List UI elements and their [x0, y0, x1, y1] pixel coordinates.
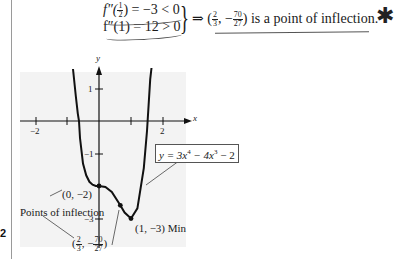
inflection-label-origin: (0, −2) [62, 188, 92, 200]
inflection-point-origin [97, 184, 102, 189]
y-tick-label-neg1: −1 [84, 149, 94, 159]
x-axis-arrow-icon [184, 118, 192, 124]
callout-leader-fraction [43, 216, 74, 238]
x-tick-label-2: 2 [160, 126, 165, 136]
y-axis-label: y [96, 53, 100, 63]
fraction-leader [112, 210, 119, 245]
function-label-box: y = 3x4 − 4x3 − 2 [155, 144, 239, 163]
y-axis-arrow-icon [96, 66, 102, 75]
callout-leader-origin [50, 190, 62, 196]
minimum-label: (1, −3) Min [135, 222, 186, 234]
x-axis-label: x [193, 113, 197, 123]
inflection-label-two-thirds: (23, −7027) [72, 236, 107, 253]
y-tick-label-1: 1 [88, 84, 93, 94]
minimum-point [129, 216, 134, 221]
inflection-point-two-thirds [118, 203, 123, 208]
x-tick-label-neg2: −2 [30, 126, 40, 136]
function-graph [0, 0, 409, 259]
points-of-inflection-label: Points of inflection [20, 206, 104, 218]
